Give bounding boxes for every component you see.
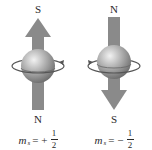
- spin-quantum-number: m s = + 1 2: [0, 129, 76, 150]
- denominator: 2: [128, 141, 133, 150]
- formula-symbol: m: [94, 134, 102, 146]
- formula-equals: =: [108, 134, 114, 146]
- electron-sphere-icon: [97, 45, 131, 79]
- spin-down-diagram: [76, 0, 152, 125]
- formula-equals: =: [32, 134, 38, 146]
- fraction: 1 2: [51, 129, 58, 150]
- formula-subscript: s: [27, 139, 30, 147]
- fraction: 1 2: [127, 129, 134, 150]
- spin-down-panel: N S m s = − 1 2: [76, 0, 152, 150]
- formula-symbol: m: [18, 134, 26, 146]
- formula-sign: −: [117, 134, 123, 146]
- spin-up-panel: S N m s = + 1 2: [0, 0, 76, 150]
- spin-quantum-number: m s = − 1 2: [76, 129, 152, 150]
- bottom-pole-label: N: [0, 114, 76, 125]
- bottom-pole-label: S: [76, 114, 152, 125]
- formula-sign: +: [41, 134, 47, 146]
- formula-subscript: s: [103, 139, 106, 147]
- denominator: 2: [52, 141, 57, 150]
- numerator: 1: [128, 129, 133, 138]
- spin-up-diagram: [0, 0, 76, 125]
- numerator: 1: [52, 129, 57, 138]
- electron-sphere-icon: [21, 49, 55, 83]
